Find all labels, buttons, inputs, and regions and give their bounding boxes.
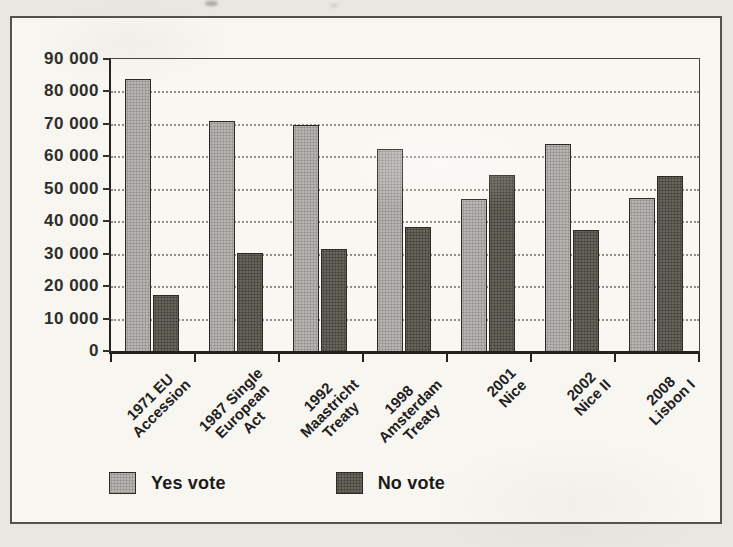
bar-yes-vote (125, 79, 151, 351)
gridline (111, 221, 699, 223)
x-axis-category-label: 1987 SingleEuropeanAct (197, 365, 289, 457)
x-axis-tick (194, 354, 196, 362)
scan-smudge (205, 1, 218, 6)
bar-no-vote (237, 253, 263, 351)
y-axis-tick (103, 253, 111, 255)
y-axis-tick-label: 70 000 (19, 115, 99, 133)
scanned-page: 010 00020 00030 00040 00050 00060 00070 … (0, 0, 733, 547)
y-axis-tick (103, 58, 111, 60)
y-axis-tick-label: 40 000 (19, 212, 99, 230)
y-axis-tick (103, 90, 111, 92)
y-axis-tick-label: 50 000 (19, 180, 99, 198)
x-axis-tick (110, 354, 112, 362)
x-axis-tick (446, 354, 448, 362)
y-axis-tick (103, 285, 111, 287)
scan-smudge (330, 4, 338, 7)
legend: Yes vote No vote (109, 472, 445, 494)
x-axis-category-label: 2002Nice II (560, 365, 614, 419)
y-axis-tick (103, 188, 111, 190)
x-axis-tick (614, 354, 616, 362)
y-axis-tick-label: 90 000 (19, 50, 99, 68)
gridline (111, 189, 699, 191)
y-axis-tick-label: 80 000 (19, 82, 99, 100)
legend-swatch-no-vote (336, 472, 363, 494)
bar-yes-vote (293, 125, 319, 351)
legend-label-yes-vote: Yes vote (151, 473, 226, 494)
legend-swatch-yes-vote (109, 472, 136, 494)
x-axis-tick (698, 354, 700, 362)
gridline (111, 91, 699, 93)
y-axis-tick-label: 20 000 (19, 277, 99, 295)
bar-no-vote (153, 295, 179, 351)
x-axis-category-label: 2008Lisbon I (634, 365, 697, 428)
bar-no-vote (321, 249, 347, 351)
y-axis-tick-label: 10 000 (19, 310, 99, 328)
y-axis-tick-label: 30 000 (19, 245, 99, 263)
x-axis-tick (278, 354, 280, 362)
gridline (111, 156, 699, 158)
y-axis-tick (103, 123, 111, 125)
y-axis-tick (103, 155, 111, 157)
x-axis-tick (530, 354, 532, 362)
bar-yes-vote (461, 199, 487, 351)
legend-label-no-vote: No vote (378, 473, 445, 494)
plot-area: 010 00020 00030 00040 00050 00060 00070 … (109, 58, 700, 354)
x-axis-tick (362, 354, 364, 362)
bar-no-vote (657, 176, 683, 351)
y-axis-tick (103, 318, 111, 320)
y-axis-tick (103, 220, 111, 222)
y-axis-tick-label: 60 000 (19, 147, 99, 165)
bar-yes-vote (209, 121, 235, 351)
gridline (111, 124, 699, 126)
bar-no-vote (405, 227, 431, 351)
x-axis-category-label: 1971 EUAccession (118, 365, 194, 441)
chart-frame: 010 00020 00030 00040 00050 00060 00070 … (10, 16, 722, 524)
bar-no-vote (573, 230, 599, 351)
bar-yes-vote (377, 149, 403, 351)
x-axis-category-label: 1992MaastrichtTreaty (286, 365, 373, 452)
x-axis-category-label: 2001Nice (483, 365, 529, 411)
x-axis-category-label: 1998AmsterdamTreaty (365, 365, 457, 457)
y-axis-tick-label: 0 (19, 342, 99, 360)
y-axis-tick (103, 350, 111, 352)
bar-no-vote (489, 175, 515, 351)
bar-yes-vote (629, 198, 655, 351)
bar-yes-vote (545, 144, 571, 351)
